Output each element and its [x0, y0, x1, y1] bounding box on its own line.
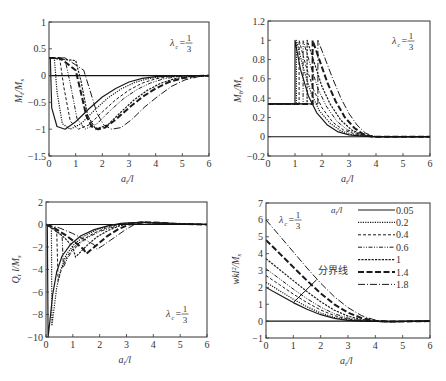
svg-text:0.2: 0.2 [253, 112, 266, 123]
svg-text:λ: λ [165, 308, 171, 319]
svg-text:1: 1 [70, 339, 75, 350]
svg-text:6: 6 [207, 158, 212, 169]
svg-text:c: c [176, 44, 179, 50]
svg-text:0.5: 0.5 [34, 43, 47, 54]
svg-text:1.2: 1.2 [253, 16, 266, 27]
svg-text:4: 4 [373, 340, 378, 351]
legend-label: 1 [396, 254, 401, 265]
series-line-1_4 [46, 222, 207, 254]
svg-text:−10: −10 [27, 332, 43, 343]
subplot-wkl2-ms: 0123456−101234567at​/lwkl²/Ms​λc=13分界线at… [230, 198, 433, 369]
series-line-1_4 [49, 58, 209, 129]
series-line-0_4 [46, 222, 207, 280]
svg-text:4: 4 [153, 158, 158, 169]
lambda-annotation: λc=13 [165, 304, 189, 325]
x-axis-ticks: 0123456 [266, 153, 433, 169]
y-axis-ticks: −0.200.20.40.60.811.2 [247, 16, 271, 162]
svg-text:3: 3 [346, 340, 351, 351]
svg-text:−2: −2 [32, 242, 43, 253]
y-axis-ticks: −1.5−1−0.500.51 [28, 17, 52, 162]
svg-text:=: = [180, 37, 186, 48]
svg-text:3: 3 [296, 221, 301, 231]
svg-text:1: 1 [73, 158, 78, 169]
svg-text:−1: −1 [35, 124, 46, 135]
svg-text:0: 0 [266, 158, 271, 169]
svg-text:5: 5 [178, 339, 183, 350]
svg-text:c: c [285, 221, 288, 227]
x-axis-label: at​/l [121, 173, 134, 186]
x-axis-label: at​/l [341, 173, 354, 186]
svg-text:1: 1 [41, 17, 46, 28]
svg-text:5: 5 [258, 231, 263, 242]
svg-text:1: 1 [296, 210, 301, 220]
y-axis-label: Qt​ l/Ms​ [10, 255, 23, 284]
svg-text:0: 0 [38, 219, 43, 230]
svg-text:−1: −1 [252, 333, 263, 344]
svg-text:0: 0 [258, 316, 263, 327]
svg-text:1: 1 [183, 304, 188, 314]
x-axis-ticks: 0123456 [47, 153, 212, 169]
svg-text:0.6: 0.6 [253, 73, 266, 84]
svg-text:λ: λ [169, 37, 175, 48]
legend-label: 0.05 [396, 205, 414, 216]
svg-text:3: 3 [347, 158, 352, 169]
legend-label: 1.4 [396, 267, 409, 278]
svg-text:2: 2 [320, 158, 325, 169]
legend-label: 0.2 [396, 217, 409, 228]
svg-text:=: = [289, 214, 295, 225]
svg-text:5: 5 [400, 340, 405, 351]
svg-text:λ: λ [391, 35, 397, 46]
svg-text:7: 7 [258, 198, 263, 209]
x-axis-ticks: 0123456 [264, 335, 433, 351]
svg-text:0: 0 [260, 131, 265, 142]
svg-text:4: 4 [258, 248, 263, 259]
svg-text:2: 2 [318, 340, 323, 351]
svg-text:−0.5: −0.5 [28, 97, 46, 108]
lambda-annotation: λc=13 [278, 210, 302, 231]
y-axis-label: wkl²/Ms​ [230, 254, 243, 285]
svg-text:λ: λ [278, 214, 284, 225]
svg-text:c: c [172, 315, 175, 321]
lambda-annotation: λc=13 [391, 31, 415, 52]
legend-label: 1.8 [396, 279, 409, 290]
svg-text:1: 1 [258, 299, 263, 310]
svg-text:3: 3 [124, 339, 129, 350]
figure-2x2-subplots: 0123456−1.5−1−0.500.51at​/lMt​/Ms​λc=13 … [0, 0, 446, 381]
svg-text:2: 2 [38, 197, 43, 208]
svg-text:6: 6 [258, 214, 263, 225]
svg-text:=: = [402, 35, 408, 46]
svg-text:0: 0 [44, 339, 49, 350]
svg-text:0: 0 [47, 158, 52, 169]
svg-text:2: 2 [258, 282, 263, 293]
svg-text:−8: −8 [32, 309, 43, 320]
svg-text:−4: −4 [32, 264, 43, 275]
svg-text:3: 3 [127, 158, 132, 169]
svg-text:1: 1 [291, 340, 296, 351]
svg-text:1: 1 [293, 158, 298, 169]
svg-text:0: 0 [264, 340, 269, 351]
svg-text:0.8: 0.8 [253, 54, 266, 65]
x-axis-label: at​/l [119, 354, 132, 367]
legend: at​/l0.050.20.40.611.41.8 [331, 205, 414, 290]
svg-text:5: 5 [401, 158, 406, 169]
svg-text:0.4: 0.4 [253, 93, 266, 104]
boundary-callout: 分界线 [318, 264, 348, 276]
lambda-annotation: λc=13 [169, 33, 193, 54]
series-group [268, 40, 430, 136]
svg-text:3: 3 [258, 265, 263, 276]
svg-text:6: 6 [205, 339, 210, 350]
svg-text:−1.5: −1.5 [28, 151, 46, 162]
svg-text:6: 6 [428, 158, 433, 169]
series-group [49, 58, 209, 129]
svg-text:0: 0 [41, 70, 46, 81]
svg-text:1: 1 [187, 33, 192, 43]
y-axis-label: Mb​/Ms​ [232, 77, 245, 104]
legend-label: 0.4 [396, 229, 409, 240]
svg-text:−0.2: −0.2 [247, 151, 265, 162]
svg-text:3: 3 [409, 42, 414, 52]
svg-text:1: 1 [260, 35, 265, 46]
svg-text:4: 4 [374, 158, 379, 169]
svg-text:2: 2 [100, 158, 105, 169]
svg-text:6: 6 [428, 340, 433, 351]
x-axis-label: at​/l [340, 355, 353, 368]
